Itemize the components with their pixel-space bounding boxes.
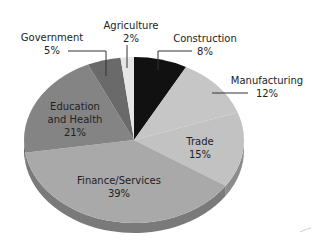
label-manufacturing-name: Manufacturing xyxy=(231,75,303,86)
label-agriculture-name: Agriculture xyxy=(104,20,159,31)
label-manufacturing-value: 12% xyxy=(256,88,278,99)
label-agriculture-value: 2% xyxy=(123,33,139,44)
label-education-name-line1: Education xyxy=(50,101,100,112)
label-finance-name: Finance/Services xyxy=(77,175,161,186)
decorative-mark xyxy=(300,228,311,232)
label-finance-value: 39% xyxy=(108,188,130,199)
label-trade-name: Trade xyxy=(185,136,213,147)
label-construction-name: Construction xyxy=(173,33,237,44)
label-education-value: 21% xyxy=(64,127,86,138)
label-education-name-line2: and Health xyxy=(48,114,103,125)
label-government-name: Government xyxy=(21,32,83,43)
label-construction-value: 8% xyxy=(197,46,213,57)
label-government-value: 5% xyxy=(44,45,60,56)
pie-chart: Agriculture 2% Government 5% Constructio… xyxy=(0,0,321,250)
label-trade-value: 15% xyxy=(189,149,211,160)
